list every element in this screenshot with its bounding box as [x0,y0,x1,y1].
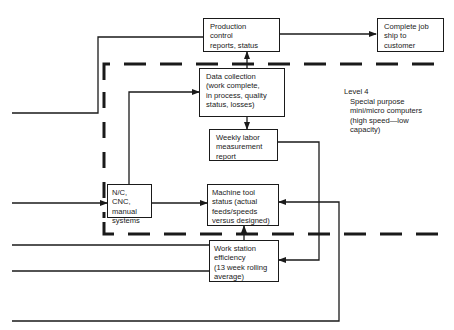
machine-tool-status-box: Machine tool status (actual feeds/speeds… [207,184,279,226]
nc-cnc-manual-box: N/C, CNC, manual systems [107,184,152,218]
complete-job-box: Complete job ship to customer [377,18,444,52]
level-4-note: Level 4 Special purpose mini/micro compu… [344,78,422,144]
line-bottom-to-machinetool [12,202,339,321]
line-nc-to-datacollection [129,92,199,184]
data-collection-box: Data collection (work complete, in proce… [199,68,285,117]
level-4-title: Level 4 [344,87,369,96]
level-4-description: Special purpose mini/micro computers (hi… [344,97,422,135]
line-input-to-production [12,37,203,113]
work-station-efficiency-box: Work station efficiency (13 week rolling… [209,240,279,282]
production-control-box: Production control reports, status [203,18,280,52]
line-weekly-to-workstation [278,142,319,260]
weekly-labor-box: Weekly labor measurement report [209,129,278,161]
